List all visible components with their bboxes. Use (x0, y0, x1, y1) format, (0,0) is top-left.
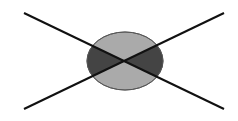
crossed-lines-diagram (0, 0, 238, 121)
left-shaded-wedge (24, 13, 125, 109)
right-shaded-wedge (125, 13, 224, 109)
